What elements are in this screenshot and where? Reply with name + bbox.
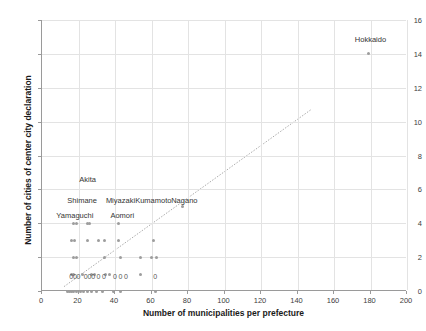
point-value-label: 0 (153, 272, 157, 279)
data-point (181, 205, 184, 208)
x-tick-mark (78, 291, 79, 294)
data-point (152, 239, 155, 242)
data-point (139, 273, 142, 276)
data-point (95, 290, 98, 293)
x-tick-mark (260, 291, 261, 294)
data-point (79, 290, 82, 293)
gridline-vertical (188, 20, 189, 290)
x-tick-label: 160 (327, 296, 340, 305)
y-tick-mark (38, 54, 41, 55)
gridline-vertical (115, 20, 116, 290)
y-tick-label: 10 (392, 117, 426, 126)
x-tick-label: 0 (39, 296, 43, 305)
x-tick-label: 60 (146, 296, 154, 305)
y-tick-label: 16 (392, 16, 426, 25)
gridline-vertical (371, 20, 372, 290)
y-tick-mark (38, 223, 41, 224)
y-tick-mark (38, 122, 41, 123)
x-tick-mark (406, 291, 407, 294)
data-point (117, 239, 120, 242)
point-value-label: 0 (102, 272, 106, 279)
plot-area: 000000000000HokkaidoAkitaShimaneMiyazaki… (41, 20, 406, 291)
data-point (117, 222, 120, 225)
data-point (72, 222, 75, 225)
y-tick-label: 4 (392, 219, 426, 228)
y-tick-label: 12 (392, 83, 426, 92)
y-tick-label: 2 (392, 253, 426, 262)
data-point (82, 290, 85, 293)
data-point (75, 256, 78, 259)
data-point (86, 239, 89, 242)
data-point (101, 290, 104, 293)
y-tick-label: 0 (392, 287, 426, 296)
data-point (90, 290, 93, 293)
point-annotation-yamaguchi: Yamaguchi (56, 210, 93, 219)
gridline-vertical (152, 20, 153, 290)
data-point (103, 239, 106, 242)
data-point (119, 256, 122, 259)
data-point (73, 239, 76, 242)
data-point (139, 256, 142, 259)
x-tick-mark (187, 291, 188, 294)
x-axis-title: Number of municipalities per prefecture (41, 308, 406, 318)
data-point (150, 256, 153, 259)
y-tick-mark (38, 189, 41, 190)
data-point (103, 256, 106, 259)
x-tick-label: 120 (254, 296, 267, 305)
x-tick-mark (41, 291, 42, 294)
gridline-vertical (261, 20, 262, 290)
point-value-label: 0 (119, 272, 123, 279)
data-point (108, 273, 111, 276)
point-value-label: 0 (124, 272, 128, 279)
gridline-vertical (334, 20, 335, 290)
x-tick-label: 140 (290, 296, 303, 305)
y-tick-mark (38, 20, 41, 21)
y-tick-mark (38, 88, 41, 89)
x-tick-label: 180 (363, 296, 376, 305)
gridline-vertical (225, 20, 226, 290)
point-annotation-shimane: Shimane (67, 195, 97, 204)
x-tick-label: 100 (217, 296, 230, 305)
y-tick-label: 8 (392, 151, 426, 160)
data-point (70, 239, 73, 242)
x-tick-mark (297, 291, 298, 294)
y-tick-label: 14 (392, 49, 426, 58)
point-value-label: 0 (91, 272, 95, 279)
data-point (86, 290, 89, 293)
y-tick-mark (38, 257, 41, 258)
data-point (154, 290, 157, 293)
point-annotation-nagano: Nagano (171, 195, 197, 204)
gridline-vertical (298, 20, 299, 290)
y-tick-mark (38, 156, 41, 157)
point-annotation-akita: Akita (79, 175, 96, 184)
point-annotation-kumamoto: Kumamoto (135, 195, 171, 204)
point-annotation-miyazaki: Miyazaki (106, 195, 135, 204)
x-tick-mark (333, 291, 334, 294)
x-tick-label: 200 (400, 296, 413, 305)
y-axis-title: Number of cities of center city declarat… (23, 40, 33, 280)
data-point (97, 239, 100, 242)
point-annotation-aomori: Aomori (110, 210, 134, 219)
x-tick-label: 40 (110, 296, 118, 305)
gridline-vertical (79, 20, 80, 290)
data-point (72, 290, 75, 293)
x-tick-label: 80 (183, 296, 191, 305)
data-point (119, 290, 122, 293)
point-value-label: 0 (97, 272, 101, 279)
point-value-label: 0 (113, 272, 117, 279)
data-point (75, 222, 78, 225)
y-tick-label: 6 (392, 185, 426, 194)
x-tick-mark (151, 291, 152, 294)
point-annotation-hokkaido: Hokkaido (355, 34, 386, 43)
x-tick-mark (370, 291, 371, 294)
point-value-label: 0 (77, 272, 81, 279)
scatter-plot-figure: Number of cities of center city declarat… (0, 0, 426, 331)
x-tick-mark (114, 291, 115, 294)
data-point (72, 256, 75, 259)
data-point (88, 222, 91, 225)
x-tick-label: 20 (73, 296, 81, 305)
x-tick-mark (224, 291, 225, 294)
